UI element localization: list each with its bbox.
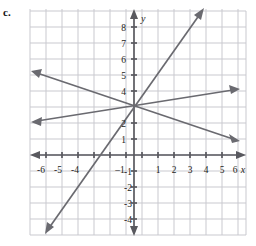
x-tick-label: 5 bbox=[220, 165, 225, 175]
y-tick-label: 6 bbox=[121, 55, 126, 65]
part-label: c. bbox=[3, 6, 11, 18]
y-tick-label: 2 bbox=[121, 119, 126, 129]
x-tick-label: 1 bbox=[156, 165, 161, 175]
y-tick-label: 7 bbox=[121, 39, 126, 49]
x-tick-label: -5 bbox=[54, 165, 62, 175]
x-tick-label: 3 bbox=[188, 165, 193, 175]
grid-lines bbox=[30, 9, 246, 235]
x-tick-label: 6 bbox=[233, 165, 238, 175]
x-axis-label: x bbox=[240, 164, 246, 175]
y-tick-label: -1 bbox=[124, 167, 132, 177]
x-tick-label: 2 bbox=[172, 165, 177, 175]
x-tick-label: -4 bbox=[71, 165, 79, 175]
x-tick-labels: -6 -5 -4 1 2 3 4 5 6 –1 bbox=[37, 165, 238, 175]
y-tick-label: -3 bbox=[124, 199, 132, 209]
x-tick-label: 4 bbox=[204, 165, 209, 175]
y-tick-label: -2 bbox=[124, 183, 132, 193]
y-axis-label: y bbox=[140, 13, 146, 24]
y-tick-labels: 8 7 6 5 4 2 1 -1 -2 -3 -4 bbox=[121, 23, 132, 225]
x-axis bbox=[30, 151, 246, 159]
graph-svg: -6 -5 -4 1 2 3 4 5 6 –1 8 7 6 5 4 2 1 -1… bbox=[0, 0, 256, 246]
figure-container: c. bbox=[0, 0, 256, 246]
x-tick-label: -6 bbox=[37, 165, 45, 175]
y-tick-label: 8 bbox=[121, 23, 126, 33]
y-tick-label: -4 bbox=[124, 215, 132, 225]
y-tick-label: 5 bbox=[121, 71, 126, 81]
y-tick-label: 4 bbox=[121, 87, 126, 97]
y-tick-label: 1 bbox=[121, 135, 126, 145]
